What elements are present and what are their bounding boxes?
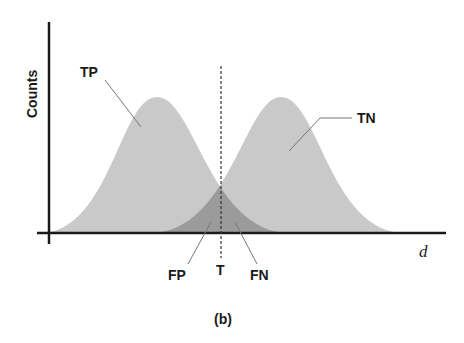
tp-leader-line xyxy=(105,80,141,127)
figure-caption: (b) xyxy=(214,311,232,327)
x-axis-label: d xyxy=(419,242,428,261)
distribution-diagram: Counts TP TN FP T FN d (b) xyxy=(0,0,464,343)
tp-label: TP xyxy=(80,64,98,80)
threshold-label: T xyxy=(216,262,225,278)
fn-label: FN xyxy=(250,267,269,283)
fp-label: FP xyxy=(168,267,186,283)
y-axis-label: Counts xyxy=(24,70,40,118)
tn-label: TN xyxy=(357,110,376,126)
